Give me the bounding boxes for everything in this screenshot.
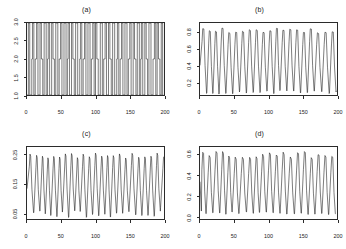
x-tick-label-text: 0 [198,233,201,239]
y-tick-mark [197,83,200,84]
x-tick-mark [303,96,304,99]
y-tick-label-text: 0.6 [187,45,192,53]
x-tick-label-text: 50 [58,233,64,239]
panel-c-title: (c) [0,130,173,137]
x-tick-label: 150 [291,100,315,118]
y-tick-mark [197,217,200,218]
y-tick-label: 2.0 [0,55,22,63]
x-tick-mark [165,96,166,99]
y-tick-mark [197,66,200,67]
y-tick-mark [197,49,200,50]
x-tick-mark [61,220,62,223]
y-tick-label-text: 3.0 [14,18,19,26]
x-tick-mark [303,220,304,223]
x-tick-label-text: 200 [334,109,343,115]
y-tick-mark [197,154,200,155]
panel-d-plot-area [199,146,338,220]
x-tick-label: 200 [326,100,346,118]
x-tick-label-text: 150 [126,109,135,115]
panel-d-title: (d) [173,130,346,137]
x-tick-label-text: 50 [231,109,237,115]
y-tick-mark [24,154,27,155]
y-tick-label: 0.15 [0,180,22,188]
y-tick-mark [197,175,200,176]
x-tick-label: 100 [257,224,281,242]
x-tick-mark [61,96,62,99]
x-tick-label-text: 100 [91,233,100,239]
y-tick-label-text: 0.8 [187,28,192,36]
x-tick-label: 150 [118,100,142,118]
y-tick-mark [24,59,27,60]
y-tick-mark [24,40,27,41]
panel-a-plot-area [26,22,165,96]
y-tick-mark [197,32,200,33]
x-tick-mark [269,220,270,223]
panel-d-series-line [200,152,336,215]
x-tick-label-text: 100 [264,109,273,115]
x-tick-label-text: 0 [25,233,28,239]
x-tick-label-text: 200 [161,233,170,239]
x-tick-mark [338,220,339,223]
x-tick-mark [26,220,27,223]
y-tick-label-text: 2.5 [14,37,19,45]
x-tick-label-text: 50 [231,233,237,239]
panel-b-plot-area [199,22,338,96]
x-tick-mark [130,96,131,99]
y-tick-label-text: 0.2 [187,193,192,201]
y-tick-label-text: 0.4 [187,172,192,180]
y-tick-label: 0.4 [173,62,195,70]
x-tick-mark [338,96,339,99]
y-tick-label: 1.0 [0,92,22,100]
panel-d: (d) 0.00.20.40.6050100150200 [173,124,346,248]
x-tick-mark [234,220,235,223]
x-tick-label: 50 [222,224,246,242]
x-tick-mark [234,96,235,99]
x-tick-label: 50 [49,100,73,118]
panel-a-title: (a) [0,6,173,13]
x-tick-mark [199,96,200,99]
y-tick-label-text: 0.15 [12,179,17,190]
x-tick-label: 100 [257,100,281,118]
x-tick-label: 150 [118,224,142,242]
panel-b-series-svg [200,23,337,95]
x-tick-mark [269,96,270,99]
x-tick-label: 0 [187,100,211,118]
x-tick-label: 0 [14,100,38,118]
y-tick-label: 0.05 [0,210,22,218]
x-tick-label-text: 100 [264,233,273,239]
panel-a-series-line [27,23,163,95]
panel-c: (c) 0.050.150.25050100150200 [0,124,173,248]
x-tick-mark [199,220,200,223]
x-tick-label-text: 0 [198,109,201,115]
panel-c-series-svg [27,147,164,219]
x-tick-label: 200 [326,224,346,242]
x-tick-label: 0 [187,224,211,242]
panel-c-series-line [27,153,164,217]
y-tick-mark [24,184,27,185]
y-tick-mark [197,196,200,197]
y-tick-label: 0.4 [173,172,195,180]
y-tick-label-text: 2.0 [14,55,19,63]
y-tick-mark [24,22,27,23]
x-tick-mark [96,96,97,99]
y-tick-label-text: 0.6 [187,151,192,159]
x-tick-mark [26,96,27,99]
x-tick-label-text: 50 [58,109,64,115]
panel-d-series-svg [200,147,337,219]
y-tick-label-text: 0.25 [12,150,17,161]
panel-c-plot-area [26,146,165,220]
y-tick-label-text: 0.0 [187,214,192,222]
figure-panel-grid: (a) 1.01.52.02.53.0050100150200 (b) 0.20… [0,0,346,249]
y-tick-label-text: 0.05 [12,209,17,220]
x-tick-label-text: 100 [91,109,100,115]
x-tick-mark [96,220,97,223]
panel-a: (a) 1.01.52.02.53.0050100150200 [0,0,173,124]
panel-b: (b) 0.20.40.60.8050100150200 [173,0,346,124]
y-tick-label: 3.0 [0,18,22,26]
y-tick-label: 0.6 [173,45,195,53]
x-tick-label-text: 150 [126,233,135,239]
y-tick-label: 0.25 [0,151,22,159]
x-tick-label-text: 0 [25,109,28,115]
y-tick-mark [24,214,27,215]
x-tick-label-text: 150 [299,233,308,239]
